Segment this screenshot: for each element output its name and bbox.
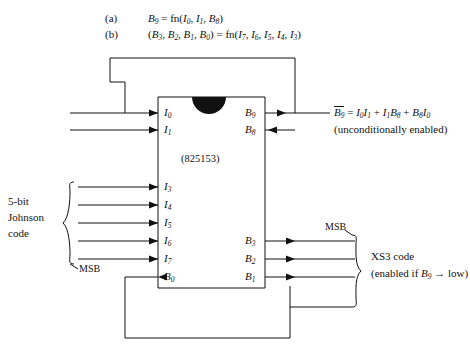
pin-label-i5: I5 [164,217,171,230]
pin1-notch-icon [192,97,226,114]
input-group-label-line2: Johnson [8,212,44,223]
input-msb-tick [70,264,78,269]
input-group-label-line1: 5-bit [8,196,29,207]
equation-b: (B3, B2, B1, B0) = fn(I7, I6, I5, I4, I3… [148,29,301,42]
arrow-i4 [149,202,158,209]
pin-label-i6: I6 [164,235,171,248]
equation-a: B9 = fn(I0, I1, B8) [148,13,223,26]
arrow-i3 [149,184,158,191]
pin-label-i0: I0 [164,107,171,120]
arrow-i5 [149,220,158,227]
logic-diagram: (a) B9 = fn(I0, I1, B8) (b) (B3, B2, B1,… [0,0,470,352]
pin-label-i1: I1 [164,124,171,137]
output-equation-note: (unconditionally enabled) [334,124,447,135]
output-msb-label: MSB [325,222,346,232]
arrow-i1 [149,127,158,134]
arrow-i0 [149,110,158,117]
arrow-b2-out [286,256,295,263]
equation-b-marker: (b) [105,29,118,40]
output-group-brace [352,235,361,307]
input-group-label-line3: code [8,228,29,239]
arrow-b1-out [286,274,295,281]
equation-a-marker: (a) [105,13,117,24]
input-msb-label: MSB [79,264,100,274]
chip-part-number: (825153) [181,154,220,165]
arrow-b8-in [268,127,277,134]
output-equation: B9 = I0I1 + I1B8 + B8I0 [334,106,430,120]
pin-label-b2: B2 [245,253,255,266]
pin-label-b1: B1 [245,271,255,284]
pin-label-b9: B9 [245,107,255,120]
pin-label-b0: B0 [164,271,174,284]
output-group-note: (enabled if B9 → low) [371,268,468,281]
arrow-i6 [149,238,158,245]
pin-label-i3: I3 [164,181,171,194]
arrow-i7 [149,256,158,263]
pin-label-i4: I4 [164,199,171,212]
diagram-wires [0,0,470,352]
pin-label-b8: B8 [245,124,255,137]
arrow-b3-out [286,238,295,245]
pin-label-b3: B3 [245,235,255,248]
output-group-label: XS3 code [371,251,414,262]
input-group-brace [63,182,74,264]
arrow-b9-out [277,110,286,117]
pin-label-i7: I7 [164,253,171,266]
